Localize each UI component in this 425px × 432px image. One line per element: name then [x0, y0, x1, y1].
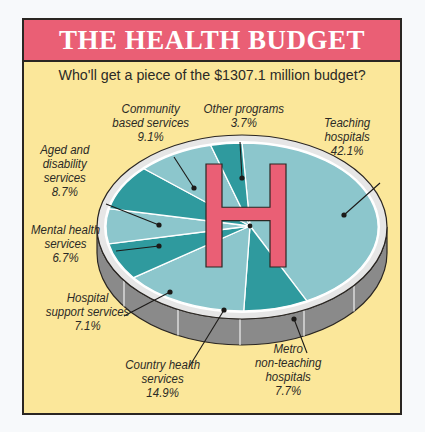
label-country-health-services: Country healthservices14.9% — [125, 358, 200, 400]
label-hospital-support-services: Hospitalsupport services7.1% — [46, 291, 130, 333]
label-community-based-services: Communitybased services9.1% — [112, 102, 189, 144]
label-mental-health-services: Mental healthservices6.7% — [31, 223, 100, 265]
label-other-programs: Other programs3.7% — [204, 102, 285, 130]
label-aged-disability-services: Aged anddisabilityservices8.7% — [40, 143, 89, 199]
pie-chart — [24, 20, 400, 413]
label-metro-non-teaching-hospitals: Metronon-teachinghospitals7.7% — [255, 342, 321, 398]
chart-frame: THE HEALTH BUDGET Who'll get a piece of … — [22, 18, 402, 415]
label-teaching-hospitals: Teachinghospitals42.1% — [324, 116, 370, 158]
